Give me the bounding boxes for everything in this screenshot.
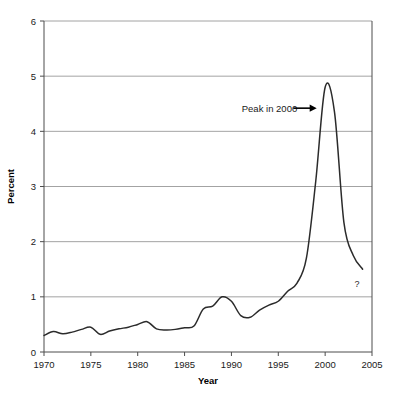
question-mark-label: ? [354,279,359,289]
x-tick-label: 1990 [221,359,242,370]
peak-annotation-label: Peak in 2000 [242,103,297,114]
y-axis-title: Percent [5,168,16,204]
x-tick-label: 2005 [361,359,382,370]
y-tick-label: 0 [31,347,36,358]
x-tick-label: 2000 [315,359,336,370]
x-tick-label: 1995 [268,359,289,370]
x-tick-label: 1985 [174,359,195,370]
y-tick-label: 6 [31,16,36,27]
y-tick-label: 4 [31,126,36,137]
line-chart: 0123456 19701975198019851990199520002005… [0,0,399,400]
y-tick-label: 3 [31,181,36,192]
y-tick-label: 1 [31,291,36,302]
x-tick-label: 1975 [80,359,101,370]
x-axis-title: Year [198,375,218,386]
y-tick-label: 2 [31,236,36,247]
x-tick-label: 1980 [127,359,148,370]
chart-figure: 0123456 19701975198019851990199520002005… [0,0,399,400]
chart-background [0,0,399,400]
x-tick-label: 1970 [33,359,54,370]
y-tick-label: 5 [31,71,36,82]
